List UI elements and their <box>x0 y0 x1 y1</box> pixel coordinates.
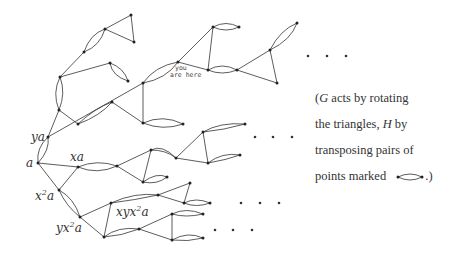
label-yx2a: yx2a <box>55 220 82 235</box>
caption-line-2: the triangles, H by <box>315 111 465 137</box>
label-x2a: x2a <box>35 188 54 203</box>
you-are-here-line2: are here <box>170 71 201 79</box>
label-a: a <box>26 156 33 170</box>
transposition-pair-icon <box>395 172 425 182</box>
label-xa: xa <box>70 150 84 164</box>
caption-line-4: points marked .) <box>315 163 465 189</box>
caption: (G acts by rotating the triangles, H by … <box>315 85 465 189</box>
caption-line-1: (G acts by rotating <box>315 85 465 111</box>
label-ya: ya <box>30 130 45 144</box>
graph-edges <box>38 15 297 241</box>
caption-line-3: transposing pairs of <box>315 137 465 163</box>
label-xyx2a: xyx2a <box>116 204 149 219</box>
